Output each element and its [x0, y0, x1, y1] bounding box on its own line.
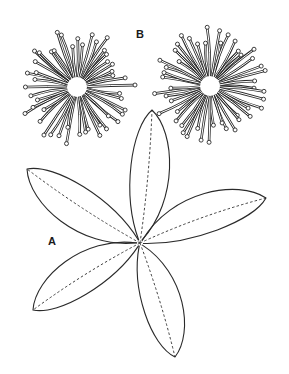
- anther: [179, 34, 183, 38]
- midrib-top: [140, 110, 152, 243]
- anther: [253, 79, 257, 83]
- anther: [187, 36, 191, 40]
- anther: [251, 56, 255, 60]
- anther: [111, 74, 115, 78]
- anther: [211, 123, 215, 127]
- leaflet-upper-left: [27, 168, 140, 243]
- anther: [226, 33, 230, 37]
- anther: [262, 97, 266, 101]
- anther: [34, 71, 38, 75]
- anther: [220, 121, 224, 125]
- leaflet-top: [130, 110, 170, 243]
- anther: [102, 48, 106, 52]
- anther: [49, 133, 53, 137]
- figure-canvas: [0, 0, 289, 374]
- anther: [236, 49, 240, 53]
- anther: [31, 105, 35, 109]
- anther: [237, 118, 241, 122]
- anther: [110, 69, 114, 73]
- anther: [252, 47, 256, 51]
- anther: [199, 138, 203, 142]
- panel-label-b: B: [136, 29, 144, 40]
- anther: [233, 128, 237, 132]
- anther: [38, 119, 42, 123]
- anther: [259, 106, 263, 110]
- anther: [33, 49, 37, 53]
- anther: [118, 91, 122, 95]
- anther: [164, 65, 168, 69]
- anther: [106, 60, 110, 64]
- anther: [81, 43, 85, 47]
- panel-b-flower-heads: [23, 25, 267, 145]
- anther: [263, 69, 267, 73]
- anther: [174, 119, 178, 123]
- anther: [33, 77, 37, 81]
- anther: [153, 92, 157, 96]
- anther: [164, 94, 168, 98]
- anther: [181, 131, 185, 135]
- receptacle: [200, 76, 220, 96]
- anther: [65, 142, 69, 146]
- anther: [219, 41, 223, 45]
- anther: [94, 40, 98, 44]
- panel-a-compound-leaf: [27, 110, 266, 357]
- anther: [105, 127, 109, 131]
- midrib-right: [140, 198, 266, 243]
- anther: [35, 98, 39, 102]
- flower-right: [153, 25, 268, 144]
- leaflet-lower-left: [33, 242, 140, 310]
- anther: [37, 51, 41, 55]
- anther: [133, 83, 137, 87]
- anther: [248, 114, 252, 118]
- anther: [123, 108, 127, 112]
- anther: [90, 33, 94, 37]
- anther: [29, 94, 33, 98]
- anther: [224, 127, 228, 131]
- anther: [177, 60, 181, 64]
- anther: [42, 108, 46, 112]
- anther: [175, 110, 179, 114]
- anther: [52, 49, 56, 53]
- anther: [76, 37, 80, 41]
- anther: [218, 29, 222, 33]
- anther: [169, 86, 173, 90]
- anther: [120, 112, 124, 116]
- panel-label-a: A: [48, 236, 56, 247]
- anther: [106, 114, 110, 118]
- botanical-figure: A B: [0, 0, 289, 374]
- anther: [246, 106, 250, 110]
- anther: [262, 89, 266, 93]
- anther: [185, 135, 189, 139]
- anther: [104, 52, 108, 56]
- anther: [158, 58, 162, 62]
- anther: [55, 30, 59, 34]
- anther: [71, 45, 75, 49]
- anther: [173, 48, 177, 52]
- anther: [116, 120, 120, 124]
- anther: [205, 25, 209, 29]
- anther: [84, 130, 88, 134]
- anther: [123, 76, 127, 80]
- anther: [259, 64, 263, 68]
- leaflet-right: [140, 189, 266, 243]
- anther: [204, 41, 208, 45]
- anther: [110, 62, 114, 66]
- anther: [196, 126, 200, 130]
- receptacle: [67, 77, 87, 97]
- anther: [23, 85, 27, 89]
- anther: [25, 71, 29, 75]
- anther: [59, 33, 63, 37]
- anther: [23, 112, 27, 116]
- anther: [57, 134, 61, 138]
- anther: [207, 140, 211, 144]
- anther: [98, 123, 102, 127]
- anther: [78, 132, 82, 136]
- anther: [175, 42, 179, 46]
- anther: [196, 42, 200, 46]
- anther: [162, 71, 166, 75]
- flower-left: [23, 30, 137, 145]
- anther: [98, 133, 102, 137]
- anther: [233, 39, 237, 43]
- anther: [105, 36, 109, 40]
- leaflet-bottom: [137, 243, 184, 357]
